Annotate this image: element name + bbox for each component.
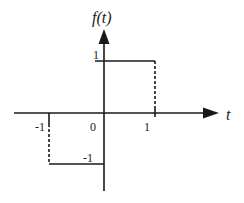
x-tick-neg1: -1 <box>35 120 45 134</box>
t-axis-arrow-icon <box>203 108 219 119</box>
signal-plot: f(t) t 0 -1 1 1 -1 <box>0 0 244 203</box>
x-tick-pos1: 1 <box>144 120 150 134</box>
x-axis-label: t <box>226 106 231 123</box>
y-tick-pos1: 1 <box>93 48 99 62</box>
f-axis-arrow-icon <box>99 29 110 44</box>
origin-label: 0 <box>90 120 96 134</box>
y-axis-label: f(t) <box>92 9 112 27</box>
y-tick-neg1: -1 <box>83 151 93 165</box>
